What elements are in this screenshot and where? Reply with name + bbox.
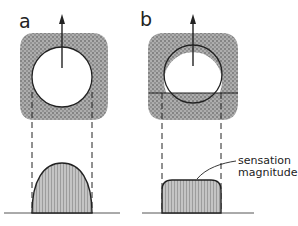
diagram-canvas [0,0,298,226]
panel-label-b: b [140,10,152,29]
response-plateau-b [162,180,221,213]
response-dome-a [32,163,92,213]
panel-label-a: a [19,12,31,31]
sensation-magnitude-label: sensation magnitude [238,155,298,179]
annotation-line-2: magnitude [238,167,298,179]
panel-a [4,14,120,213]
annotation-leader-line [197,161,236,179]
arrowhead-icon [59,14,65,24]
arrowhead-icon [190,14,196,24]
panel-b [142,14,254,213]
